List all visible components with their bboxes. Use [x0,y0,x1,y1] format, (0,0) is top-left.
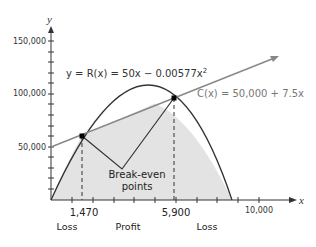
x-axis-label: x [298,194,304,206]
y-tick-100000: 100,000 [13,89,46,98]
x-axis-arrow [289,197,297,203]
x-tick-10000: 10,000 [245,206,273,215]
region-loss-left: Loss [57,221,78,232]
x-marker-1470: 1,470 [70,207,99,218]
break-even-point-2 [172,96,177,101]
y-tick-150000: 150,000 [13,37,46,46]
break-even-label-line2: points [122,181,153,192]
break-even-chart: y x 150,000 100,000 50,000 1,470 5,900 1… [0,0,316,247]
revenue-equation: y = R(x) = 50x − 0.00577x2 [66,67,207,79]
break-even-label-line1: Break-even [109,169,166,180]
x-marker-5900: 5,900 [162,207,191,218]
y-axis-label: y [46,13,52,25]
region-loss-right: Loss [197,221,218,232]
region-profit: Profit [116,221,141,232]
break-even-point-1 [80,134,85,139]
cost-equation: C(x) = 50,000 + 7.5x [197,88,304,99]
y-tick-50000: 50,000 [18,143,46,152]
y-axis-arrow [48,26,54,33]
